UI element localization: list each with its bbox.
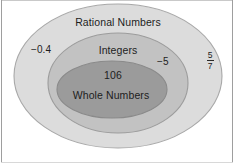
- member-negative-zero-point-four-label: −0.4: [31, 45, 51, 55]
- number-sets-venn-diagram-figure: Rational Numbers Integers Whole Numbers …: [0, 0, 234, 163]
- member-negative-five-label: −5: [157, 57, 169, 67]
- fraction-numerator: 5: [203, 51, 217, 60]
- member-106-label: 106: [104, 70, 122, 81]
- member-five-sevenths-label: 5 7: [203, 51, 217, 71]
- whole-numbers-label: Whole Numbers: [73, 90, 150, 101]
- rational-numbers-label: Rational Numbers: [75, 17, 161, 28]
- fraction-denominator: 7: [203, 62, 217, 71]
- integers-label: Integers: [99, 45, 138, 56]
